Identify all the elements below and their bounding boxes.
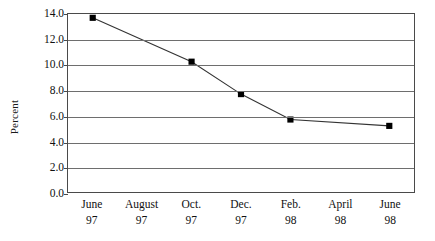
data-point-marker — [386, 123, 392, 129]
series-line — [93, 18, 390, 126]
y-tick-mark — [64, 91, 68, 92]
line-chart: Percent 14.012.010.08.06.04.02.00.0 June… — [0, 0, 435, 241]
x-tick-year: 98 — [355, 212, 425, 228]
y-tick-label: 12.0 — [24, 33, 64, 45]
data-point-marker — [90, 15, 96, 21]
y-tick-mark — [64, 40, 68, 41]
x-tick-label: June98 — [355, 196, 425, 228]
y-tick-mark — [64, 168, 68, 169]
y-tick-mark — [64, 65, 68, 66]
plot-area — [67, 13, 415, 193]
data-point-marker — [188, 59, 194, 65]
x-axis-tick-labels: June97August97Oct.97Dec.97Feb.98April98J… — [67, 196, 415, 240]
gridline — [68, 168, 414, 169]
y-tick-mark — [64, 194, 68, 195]
gridline — [68, 117, 414, 118]
gridline — [68, 91, 414, 92]
gridline — [68, 65, 414, 66]
y-axis-tick-labels: 14.012.010.08.06.04.02.00.0 — [24, 13, 64, 193]
y-tick-label: 8.0 — [24, 84, 64, 96]
y-tick-label: 14.0 — [24, 7, 64, 19]
y-tick-label: 4.0 — [24, 136, 64, 148]
gridline — [68, 143, 414, 144]
y-tick-mark — [64, 14, 68, 15]
gridline — [68, 40, 414, 41]
x-tick-period: June — [355, 196, 425, 212]
y-tick-label: 10.0 — [24, 58, 64, 70]
y-tick-mark — [64, 117, 68, 118]
y-tick-mark — [64, 143, 68, 144]
y-tick-label: 2.0 — [24, 161, 64, 173]
y-tick-label: 6.0 — [24, 110, 64, 122]
